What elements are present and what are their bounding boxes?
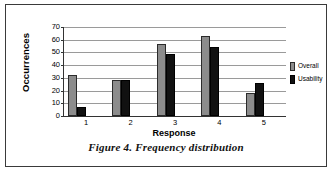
y-tick-mark xyxy=(61,116,64,117)
bar-group xyxy=(64,27,108,116)
bar-usability-4 xyxy=(210,47,219,116)
y-tick-label: 0 xyxy=(56,112,60,120)
bar-usability-3 xyxy=(166,54,175,116)
bar-group xyxy=(108,27,152,116)
y-tick-label: 10 xyxy=(52,100,60,108)
y-tick-label: 50 xyxy=(52,49,60,57)
x-tick-label: 3 xyxy=(162,119,188,127)
bar-usability-2 xyxy=(121,80,130,116)
bar-usability-5 xyxy=(255,83,264,116)
y-axis-title: Occurrences xyxy=(20,28,31,98)
legend-swatch-icon xyxy=(290,75,295,84)
legend-swatch-icon xyxy=(290,62,295,71)
x-tick-label: 1 xyxy=(73,119,99,127)
bar-overall-1 xyxy=(68,75,77,116)
bar-overall-3 xyxy=(157,44,166,116)
bar-overall-5 xyxy=(246,93,255,116)
bar-usability-1 xyxy=(77,107,86,116)
x-tick-label: 5 xyxy=(251,119,277,127)
y-tick-label: 20 xyxy=(52,87,60,95)
bar-overall-4 xyxy=(201,36,210,116)
y-tick-label: 40 xyxy=(52,61,60,69)
figure-caption: Figure 4. Frequency distribution xyxy=(6,141,326,153)
bars-layer xyxy=(64,27,286,116)
legend-item-overall: Overall xyxy=(290,62,334,71)
legend-label: Usability xyxy=(298,76,323,83)
bar-chart: Occurrences 010203040506070 12345 Respon… xyxy=(6,7,328,131)
bar-group xyxy=(197,27,241,116)
bar-group xyxy=(242,27,286,116)
x-tick-label: 2 xyxy=(118,119,144,127)
bar-group xyxy=(153,27,197,116)
x-axis-title: Response xyxy=(63,128,285,138)
plot-area: 010203040506070 12345 xyxy=(63,27,286,117)
chart-legend: OverallUsability xyxy=(290,62,334,88)
legend-label: Overall xyxy=(298,63,319,70)
x-tick-label: 4 xyxy=(206,119,232,127)
figure-frame: Occurrences 010203040506070 12345 Respon… xyxy=(5,4,327,167)
y-tick-label: 60 xyxy=(52,36,60,44)
y-tick-label: 70 xyxy=(52,23,60,31)
bar-overall-2 xyxy=(112,80,121,116)
legend-item-usability: Usability xyxy=(290,75,334,84)
y-tick-label: 30 xyxy=(52,74,60,82)
